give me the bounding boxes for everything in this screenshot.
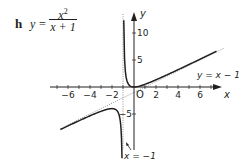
pointer-arrow-icon <box>126 142 129 146</box>
vertical-asymptote-label: x = −1 <box>123 151 156 161</box>
oblique-asymptote-label: y = x − 1 <box>196 70 240 80</box>
x-tick-label: 4 <box>175 90 181 100</box>
y-tick-label: 10 <box>137 28 149 38</box>
y-axis-label: y <box>139 8 147 19</box>
origin-label: O <box>136 89 144 100</box>
x-tick-label: −2 <box>105 90 118 100</box>
x-tick-label: 6 <box>197 90 203 100</box>
graph: −6−4−2246105−5xyOy = x − 1x = −1 <box>0 0 245 161</box>
x-tick-label: −6 <box>61 90 75 100</box>
x-tick-label: −4 <box>83 90 97 100</box>
y-tick-label: 5 <box>137 55 143 65</box>
x-axis-arrow-icon <box>213 84 222 90</box>
y-tick-label: −5 <box>119 109 132 119</box>
x-tick-label: 2 <box>153 90 159 100</box>
curve-left-branch <box>60 109 122 159</box>
x-axis-label: x <box>223 89 230 100</box>
axes <box>50 12 222 150</box>
y-axis-arrow-icon <box>131 12 137 21</box>
